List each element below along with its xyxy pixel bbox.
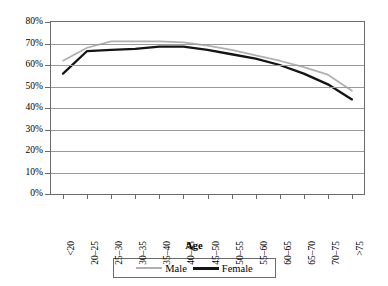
x-axis-tick-label: 65–70 bbox=[308, 241, 318, 265]
x-axis-tick-label: <20 bbox=[67, 241, 77, 256]
y-axis-tick-label: 70% bbox=[26, 39, 43, 49]
gridline bbox=[51, 151, 364, 152]
series-line-male bbox=[63, 41, 352, 90]
x-axis-tick-label: 50–55 bbox=[236, 241, 246, 265]
x-axis-tick bbox=[208, 195, 209, 199]
y-axis-tick-label: 30% bbox=[26, 125, 43, 135]
y-axis-tick-label: 60% bbox=[26, 60, 43, 70]
gridline bbox=[51, 108, 364, 109]
gridline bbox=[51, 130, 364, 131]
x-axis-tick-label: 60–65 bbox=[284, 241, 294, 265]
y-axis-tick-label: 20% bbox=[26, 146, 43, 156]
y-axis-tick-label: 10% bbox=[26, 168, 43, 178]
x-axis-tick bbox=[256, 195, 257, 199]
x-axis-tick bbox=[159, 195, 160, 199]
x-axis-tick bbox=[63, 195, 64, 199]
x-axis-tick-label: >75 bbox=[356, 241, 366, 256]
x-axis-tick-label: 30–35 bbox=[139, 241, 149, 265]
series-line-female bbox=[63, 47, 352, 100]
x-axis-tick bbox=[111, 195, 112, 199]
x-axis-tick bbox=[87, 195, 88, 199]
chart-container: 0%10%20%30%40%50%60%70%80% Age Male Fema… bbox=[0, 0, 388, 286]
gridline bbox=[51, 87, 364, 88]
x-axis-tick bbox=[304, 195, 305, 199]
gridline bbox=[51, 65, 364, 66]
x-axis-tick-label: 35–40 bbox=[163, 241, 173, 265]
y-axis-tick-label: 0% bbox=[30, 189, 43, 199]
x-axis-tick bbox=[135, 195, 136, 199]
y-axis-tick-label: 80% bbox=[26, 17, 43, 27]
x-axis-tick-label: 45–50 bbox=[212, 241, 222, 265]
plot-area bbox=[50, 21, 365, 195]
x-axis-tick bbox=[232, 195, 233, 199]
x-axis-tick-label: 70–75 bbox=[332, 241, 342, 265]
x-axis-tick-label: 20–25 bbox=[91, 241, 101, 265]
x-axis-tick bbox=[352, 195, 353, 199]
y-axis-tick-label: 40% bbox=[26, 103, 43, 113]
y-axis: 0%10%20%30%40%50%60%70%80% bbox=[0, 0, 50, 200]
legend-swatch-female-line-icon bbox=[193, 267, 219, 270]
x-axis-tick-label: 55–60 bbox=[260, 241, 270, 265]
x-axis-tick bbox=[183, 195, 184, 199]
gridline bbox=[51, 44, 364, 45]
x-axis-tick-label: 25–30 bbox=[115, 241, 125, 265]
x-axis-tick bbox=[280, 195, 281, 199]
gridline bbox=[51, 173, 364, 174]
x-axis-tick-label: 40–45 bbox=[187, 241, 197, 265]
y-axis-tick-label: 50% bbox=[26, 82, 43, 92]
legend-swatch-male-line-icon bbox=[136, 267, 162, 269]
x-axis-tick bbox=[328, 195, 329, 199]
